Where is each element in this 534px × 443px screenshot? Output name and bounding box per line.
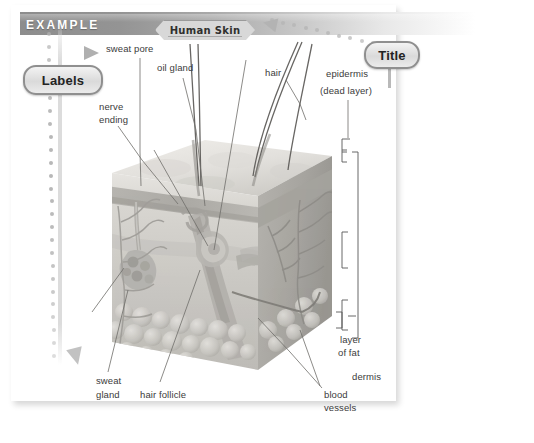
label-epidermis: epidermis [326,68,368,80]
label-nerve: nerve [99,101,123,113]
label-oil-gland: oil gland [157,62,193,74]
label-hair: hair [265,67,281,79]
label-sweat-pore: sweat pore [106,43,153,55]
screenshot-stage: Example Human Skin Labels Title [0,0,534,443]
label-blood: blood [324,389,348,401]
label-vessels: vessels [324,402,356,414]
label-hair-follicle: hair follicle [140,389,186,401]
label-layer: layer [340,334,361,346]
label-sweat: sweat [96,375,121,387]
label-of-fat: of fat [338,347,360,359]
label-nerve-ending: ending [99,114,128,126]
label-dermis: dermis [352,371,381,383]
label-gland: gland [96,389,120,401]
label-dead-layer: (dead layer) [320,85,372,97]
